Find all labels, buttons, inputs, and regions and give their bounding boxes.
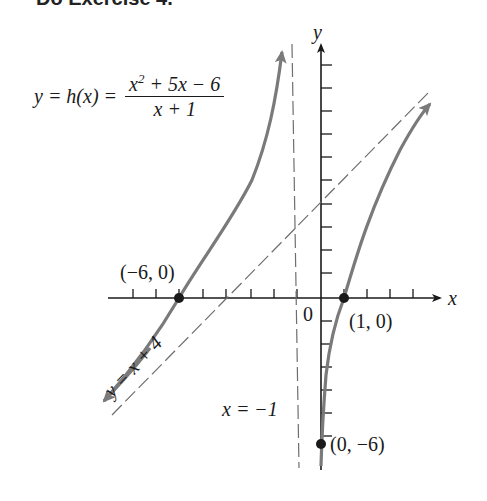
oblique-asymptote [112,92,429,415]
vertical-asymptote [292,44,299,468]
point-0-neg6 [316,439,326,449]
numerator-rest: + 5x − 6 [144,73,220,95]
x-axis-label: x [448,288,457,308]
function-equation: y = h(x) = x2 + 5x − 6 x + 1 [34,72,224,119]
equation-fraction: x2 + 5x − 6 x + 1 [125,72,224,119]
numerator-x: x [129,73,138,95]
origin-label: 0 [303,304,313,324]
point-label-neg6-0: (−6, 0) [120,262,175,282]
point-1-0 [339,293,349,303]
curve-right-branch [321,104,430,466]
equation-numerator: x2 + 5x − 6 [125,72,224,97]
equation-denominator: x + 1 [154,97,196,119]
point-label-0-neg6: (0, −6) [330,434,385,454]
equation-lhs: y = h(x) = [34,86,117,106]
point-label-1-0: (1, 0) [349,311,392,331]
exercise-header: Do Exercise 4. [36,0,173,10]
y-axis-label: y [313,22,322,42]
point-neg6-0 [174,293,184,303]
vertical-asymptote-label: x = −1 [222,399,278,419]
x-axis [108,289,440,298]
